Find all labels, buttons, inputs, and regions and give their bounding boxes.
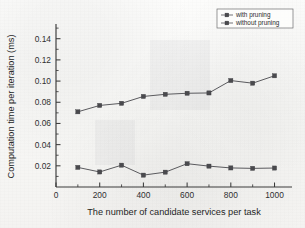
legend-swatch-marker (225, 21, 229, 25)
x-axis-title: The number of candidate services per tas… (87, 207, 261, 217)
data-point (207, 164, 211, 168)
data-point (185, 162, 189, 166)
x-tick-label: 600 (180, 190, 194, 200)
y-axis-title: Computation time per iteration (ms) (6, 35, 16, 179)
chart-legend: with pruningwithout pruning (217, 9, 293, 28)
y-tick-label: 0.04 (35, 140, 52, 150)
legend-entry-label: without pruning (235, 19, 280, 27)
data-point (272, 166, 276, 170)
line-chart: 0.020.040.060.080.100.120.14 02004006008… (0, 0, 305, 228)
figure-canvas: 0.020.040.060.080.100.120.14 02004006008… (0, 0, 305, 228)
data-point (141, 94, 145, 98)
data-point (163, 92, 167, 96)
x-tick-label: 1000 (265, 190, 284, 200)
x-tick-label: 200 (93, 190, 107, 200)
data-point (251, 81, 255, 85)
y-tick-label: 0.10 (35, 76, 52, 86)
data-point (185, 91, 189, 95)
scan-artifacts (95, 40, 210, 165)
data-point (76, 110, 80, 114)
y-tick-label: 0.06 (35, 118, 52, 128)
data-point (141, 173, 145, 177)
y-tick-label: 0.02 (35, 161, 52, 171)
data-point (98, 170, 102, 174)
data-point (76, 165, 80, 169)
legend-swatch-marker (225, 13, 229, 17)
data-point (251, 166, 255, 170)
legend-entry-label: with pruning (235, 11, 271, 19)
data-point (207, 91, 211, 95)
x-axis: 02004006008001000 (54, 183, 292, 201)
data-point (229, 78, 233, 82)
x-tick-label: 400 (136, 190, 150, 200)
x-tick-label: 800 (224, 190, 238, 200)
x-tick-label: 0 (54, 190, 59, 200)
y-axis: 0.020.040.060.080.100.120.14 (35, 24, 61, 187)
data-point (119, 101, 123, 105)
y-tick-label: 0.12 (35, 55, 52, 65)
y-tick-label: 0.14 (35, 34, 52, 44)
data-point (98, 103, 102, 107)
series-line-0 (78, 164, 275, 175)
data-point (119, 163, 123, 167)
data-point (163, 170, 167, 174)
data-point (229, 166, 233, 170)
data-point (272, 74, 276, 78)
y-tick-label: 0.08 (35, 97, 52, 107)
